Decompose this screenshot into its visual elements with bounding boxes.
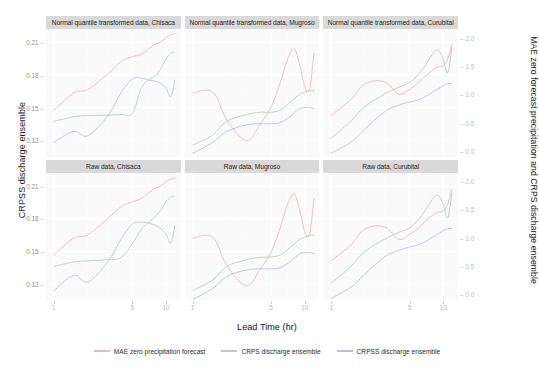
y-axis-tick-label: 0.12 –: [26, 137, 44, 144]
y-axis-tick-label: 0.21 –: [26, 39, 44, 46]
y-axis-tick-label: 0.18 –: [26, 71, 44, 78]
facet-panel: Raw data, Chisaca: [46, 160, 181, 301]
plot-area: [323, 173, 458, 301]
y-axis-right-title: MAE zero forecast precipitation and CRPS…: [529, 25, 539, 295]
y-axis-tick-label: – 1.5: [460, 206, 474, 213]
legend-line-icon: [94, 350, 110, 351]
plot-area: [46, 29, 181, 157]
y-axis-tick-label: – 1.0: [460, 91, 474, 98]
facet-strip-label: Normal quantile transformed data, Chisac…: [46, 16, 181, 29]
facet-panel: Normal quantile transformed data, Curubi…: [323, 16, 458, 157]
facet-strip-label: Raw data, Curubital: [323, 160, 458, 173]
plot-area: [185, 173, 320, 301]
legend-item: CRPSS discharge ensemble: [337, 348, 441, 355]
y-axis-tick-label: 0.18 –: [26, 215, 44, 222]
y-axis-tick-label: 0.12 –: [26, 280, 44, 287]
legend-line-icon: [221, 350, 237, 351]
x-axis-tick-label: 1: [329, 304, 333, 311]
facet-panel: Normal quantile transformed data, Mugros…: [185, 16, 320, 157]
x-axis-tick-label: 5: [269, 304, 273, 311]
x-axis-tick-label: 10: [163, 304, 170, 311]
y-axis-tick-label: – 2.0: [460, 178, 474, 185]
legend-line-icon: [337, 350, 353, 351]
y-axis-tick-label: – 1.0: [460, 234, 474, 241]
y-axis-tick-label: 0.21 –: [26, 182, 44, 189]
legend-item: MAE zero precipitation forecast: [94, 348, 206, 355]
x-axis-tick-label: 10: [301, 304, 308, 311]
y-axis-tick-label: 0.15 –: [26, 104, 44, 111]
plot-area: [46, 173, 181, 301]
chart-legend: MAE zero precipitation forecastCRPS disc…: [0, 342, 534, 360]
facet-strip-label: Normal quantile transformed data, Curubi…: [323, 16, 458, 29]
y-axis-tick-label: – 1.5: [460, 62, 474, 69]
facet-strip-label: Raw data, Mugroso: [185, 160, 320, 173]
x-axis-tick-label: 1: [191, 304, 195, 311]
legend-item: CRPS discharge ensemble: [221, 348, 320, 355]
legend-label: MAE zero precipitation forecast: [114, 348, 206, 355]
y-axis-tick-label: – 0.5: [460, 119, 474, 126]
facet-panel: Normal quantile transformed data, Chisac…: [46, 16, 181, 157]
y-axis-left-title: CRPSS discharge ensemble: [17, 60, 27, 260]
x-axis-tick-label: 5: [131, 304, 135, 311]
facet-panel: Raw data, Curubital: [323, 160, 458, 301]
legend-label: CRPS discharge ensemble: [241, 348, 320, 355]
y-axis-tick-label: – 0.0: [460, 291, 474, 298]
legend-label: CRPSS discharge ensemble: [357, 348, 441, 355]
y-axis-tick-label: – 2.0: [460, 34, 474, 41]
facet-panel: Raw data, Mugroso: [185, 160, 320, 301]
x-axis-tick-label: 10: [440, 304, 447, 311]
x-axis-title: Lead Time (hr): [0, 322, 534, 332]
y-axis-tick-label: – 0.0: [460, 147, 474, 154]
facet-strip-label: Raw data, Chisaca: [46, 160, 181, 173]
plot-area: [323, 29, 458, 157]
x-axis-tick-label: 1: [52, 304, 56, 311]
y-axis-tick-label: 0.15 –: [26, 248, 44, 255]
plot-area: [185, 29, 320, 157]
facet-strip-label: Normal quantile transformed data, Mugros…: [185, 16, 320, 29]
y-axis-tick-label: – 0.5: [460, 263, 474, 270]
facet-grid: Normal quantile transformed data, Chisac…: [46, 16, 458, 300]
x-axis-tick-label: 5: [408, 304, 412, 311]
